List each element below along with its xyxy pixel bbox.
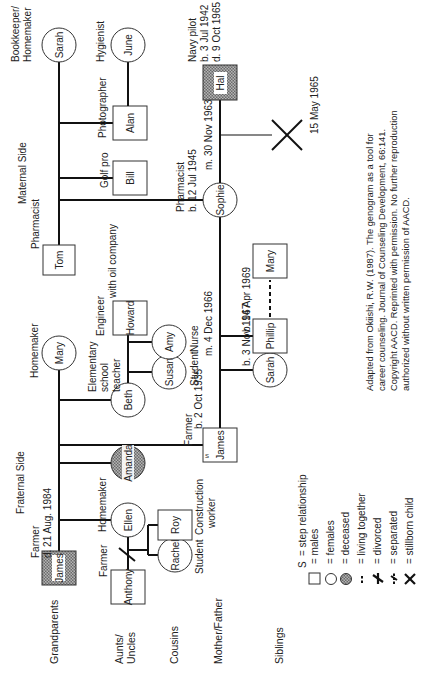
citation-line-4: authorized without written permission of…: [401, 197, 411, 391]
fraternal-side-heading: Fraternal Side: [15, 451, 26, 514]
person-sarah-grandmother: Sarah: [42, 28, 76, 62]
svg-text:Bill: Bill: [125, 171, 136, 184]
svg-text:Rachel: Rachel: [170, 539, 181, 570]
beth-occupation-1: Elementary: [87, 341, 98, 392]
svg-text:Roy: Roy: [170, 516, 181, 534]
row-label-mother-father: Mother/Father: [212, 598, 224, 664]
svg-text:Sarah: Sarah: [265, 357, 276, 384]
legend-step-symbol: S: [297, 561, 308, 568]
svg-text:Amy: Amy: [164, 332, 175, 352]
genogram-diagram: Fraternal Side Maternal Side Grandparent…: [0, 0, 424, 674]
legend-step-label: = step relationship: [297, 474, 308, 556]
legend-square-icon: [309, 573, 320, 584]
alan-occupation: Photographer: [97, 77, 108, 138]
sarah-gm-occupation-2: Homemaker: [22, 7, 33, 62]
maternal-side-heading: Maternal Side: [17, 142, 28, 204]
person-howard: Howard: [113, 301, 147, 335]
hal-occupation-visible: Navy pilot: [187, 18, 198, 62]
person-susan: Susan: [152, 355, 186, 389]
person-sarah-sibling: Sarah: [253, 353, 287, 387]
legend: S = step relationship = males = males = …: [297, 474, 415, 584]
row-label-aunts-uncles: Aunts/: [113, 634, 125, 664]
beth-occupation-3: teacher: [111, 358, 122, 392]
person-sophie: Sophie: [203, 183, 237, 217]
rachel-occupation: Student: [194, 539, 205, 574]
svg-text:James: James: [215, 430, 226, 459]
person-mary-partner: Mary: [253, 244, 287, 278]
person-anthony: Anthony: [111, 569, 145, 606]
phillip-birth: b. 14 Apr 1969: [241, 267, 252, 332]
person-phillip: Phillip: [253, 319, 287, 353]
citation-line-2: career counseling. Journal of Counseling…: [377, 129, 387, 391]
svg-text:Ellen: Ellen: [123, 509, 134, 531]
person-roy: Roy: [158, 510, 192, 540]
row-label-cousins: Cousins: [168, 626, 180, 664]
stillborn-date: 15 May 1965: [309, 76, 320, 134]
bill-occupation: Golf pro: [99, 152, 110, 188]
row-label-siblings: Siblings: [273, 627, 285, 664]
person-amy: Amy: [152, 325, 186, 359]
legend-separated: = separated: [388, 511, 399, 564]
tom-occupation: Pharmacist: [30, 199, 41, 249]
hal-birth: b. 3 Jul 1942: [199, 4, 210, 62]
legend-circle-icon: [326, 574, 337, 585]
row-label-aunts-uncles-2: Uncles: [125, 632, 137, 664]
sarah-gm-occupation-1: Bookkeeper/: [10, 6, 21, 62]
beth-occupation-2: school: [99, 363, 110, 392]
svg-text:Hal: Hal: [215, 75, 226, 90]
sophie-birth: b. 12 Jul 1945: [187, 149, 198, 212]
svg-text:Mary: Mary: [54, 342, 65, 364]
legend-males: = males: [309, 529, 320, 564]
legend-females: = females: [325, 520, 336, 564]
person-bill: Bill: [113, 161, 147, 195]
person-tom: Tom: [43, 245, 75, 275]
svg-text:Anthony: Anthony: [123, 569, 134, 606]
step-marker: S: [205, 453, 209, 459]
legend-separated-icon: [391, 573, 397, 584]
svg-text:Sarah: Sarah: [54, 32, 65, 59]
svg-text:Tom: Tom: [54, 251, 65, 270]
person-rachel: Rachel: [158, 538, 192, 572]
svg-text:Beth: Beth: [123, 390, 134, 411]
svg-text:June: June: [123, 34, 134, 56]
person-james-father: S James: [203, 428, 237, 462]
person-amanda: Amanda: [111, 444, 145, 482]
howard-occupation-1: Engineer: [95, 295, 106, 336]
svg-text:Alan: Alan: [125, 113, 136, 133]
citation-line-1: Adapted from Okiishi, R.W. (1987). The g…: [365, 133, 375, 391]
anthony-occupation: Farmer: [98, 544, 109, 577]
roy-occupation-2: worker: [206, 497, 217, 529]
legend-stillborn-icon: [405, 574, 415, 584]
legend-divorced-icon: [373, 573, 383, 584]
person-june: June: [111, 28, 145, 62]
legend-deceased-icon: [341, 574, 352, 585]
row-label-grandparents: Grandparents: [48, 600, 60, 664]
person-hal: Hal: [203, 65, 237, 100]
person-ellen: Ellen: [111, 503, 145, 537]
james-gf-death: d. 21 Aug. 1984: [42, 487, 53, 558]
svg-text:Amanda: Amanda: [123, 444, 134, 482]
person-mary-grandmother: Mary: [42, 336, 76, 370]
legend-deceased: = deceased: [340, 512, 351, 564]
marriage-date-james-sophie: m. 4 Dec 1966: [203, 291, 214, 356]
marriage-date-sophie-hal: m. 30 Nov 1963: [203, 99, 214, 170]
svg-text:Mary: Mary: [265, 250, 276, 272]
citation: Adapted from Okiishi, R.W. (1987). The g…: [365, 110, 411, 391]
james-gf-occupation: Farmer: [30, 525, 41, 558]
svg-text:Phillip: Phillip: [265, 322, 276, 349]
legend-divorced: = divorced: [372, 518, 383, 564]
james-father-birth-visible: b. 2 Oct 1935: [193, 369, 204, 429]
legend-stillborn: = stillborn child: [404, 498, 415, 564]
svg-text:Susan: Susan: [164, 358, 175, 386]
mary-gm-occupation: Homemaker: [29, 323, 40, 378]
hal-death: d. 9 Oct 1965: [211, 2, 222, 62]
ellen-occupation: Homemaker: [97, 477, 108, 532]
legend-living-together: = living together: [356, 492, 367, 564]
person-alan: Alan: [113, 106, 147, 140]
citation-line-3: Copyright AACD. Reprinted with permissio…: [389, 110, 399, 391]
amy-occupation: Nurse: [189, 325, 200, 352]
svg-text:Howard: Howard: [125, 301, 136, 335]
june-occupation: Hygienist: [95, 21, 106, 62]
howard-occupation-2b: with oil company: [107, 224, 118, 299]
roy-occupation-1: Construction: [194, 479, 205, 535]
